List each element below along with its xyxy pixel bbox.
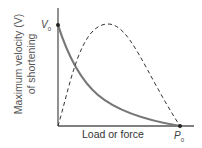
v0-label: V0: [41, 19, 51, 32]
x-axis-label: Load or force: [82, 128, 144, 140]
y-axis-label-line1: Maximum velocity (V): [12, 5, 24, 123]
velocity-curve: [58, 25, 180, 126]
y-axis-label-line2: of shortening: [25, 5, 37, 123]
power-curve: [58, 24, 180, 126]
v0-point: [56, 23, 60, 27]
p0-point: [178, 124, 182, 128]
p0-label: P0: [174, 130, 184, 143]
